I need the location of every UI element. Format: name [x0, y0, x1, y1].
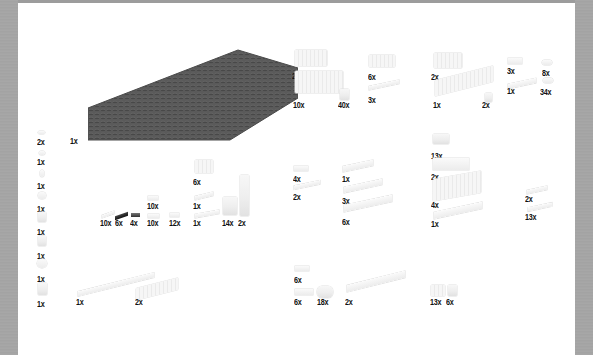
part-count: 6x [294, 298, 302, 307]
minifig-accessory-icon [38, 283, 47, 295]
part-count: 1x [431, 220, 439, 229]
part-count: 1x [342, 175, 350, 184]
part-count: 1x [433, 101, 441, 110]
hook-icon [40, 170, 44, 177]
part-count: 6x [193, 178, 201, 187]
brick-2x4-icon [295, 50, 327, 66]
plate-2x12-icon [347, 271, 405, 292]
brick-2x2-a-icon [431, 285, 445, 296]
left-part-count: 1x [37, 182, 45, 191]
part-count: 12x [169, 219, 180, 228]
brick-1x1-icon [340, 89, 349, 100]
part-count: 34x [540, 88, 551, 97]
flower-icon [37, 259, 47, 268]
brick-1x10-icon [435, 66, 493, 96]
axle-pin-icon [131, 213, 140, 217]
plate-2x2-icon [294, 166, 308, 171]
part-count: 13x [430, 298, 441, 307]
plate-2x6-icon [344, 179, 382, 193]
plate-1x4-icon [527, 186, 547, 194]
part-count: 13x [525, 213, 536, 222]
part-count: 10x [293, 101, 304, 110]
page-border-right [575, 0, 593, 355]
bracket-icon [38, 236, 46, 246]
round-plate-icon [38, 192, 46, 199]
brick-2x3-icon [434, 53, 462, 68]
baseplate-count: 1x [70, 137, 78, 146]
part-count: 2x [525, 195, 533, 204]
plate-2x4-icon [343, 160, 373, 172]
part-count: 10x [147, 219, 158, 228]
plate-1x4-top-icon [195, 192, 213, 200]
part-count: 18x [317, 298, 328, 307]
part-count: 2x [238, 219, 246, 228]
part-count: 3x [507, 67, 515, 76]
part-count: 10x [147, 202, 158, 211]
plate-1x3-top-icon [295, 266, 309, 271]
part-count: 2x [345, 298, 353, 307]
small-clip-icon [38, 131, 45, 134]
left-part-count: 2x [37, 138, 45, 147]
part-count: 1x [193, 219, 201, 228]
brick-1x2-icon [433, 134, 449, 144]
plate-1x2-jumper-icon [170, 213, 179, 217]
parts-inventory-page: 1x 2x 1x 1x 1x 1x 1x 1x 1x 2x 10x 40x 6x… [18, 3, 575, 355]
plate-2x10-icon [434, 202, 482, 219]
plate-1x6-bottom-icon [195, 210, 219, 218]
part-count: 14x [222, 219, 233, 228]
brick-with-clip-icon [38, 212, 46, 222]
plate-1x2-top-icon [148, 196, 158, 200]
brick-2x2-icon [195, 160, 213, 173]
part-count: 4x [130, 219, 138, 228]
part-count: 6x [368, 73, 376, 82]
part-count: 6x [342, 218, 350, 227]
brick-1x2-b-icon [448, 285, 457, 296]
part-count: 10x [100, 219, 111, 228]
slope-brick-icon [223, 197, 237, 215]
brick-1x8-icon [136, 278, 178, 300]
plate-round-small-icon [542, 60, 552, 65]
part-count: 1x [76, 298, 84, 307]
part-count: 40x [338, 101, 349, 110]
part-count: 1x [193, 202, 201, 211]
baseplate-icon [88, 48, 298, 143]
brick-2x8-icon [433, 171, 481, 201]
left-part-count: 1x [37, 158, 45, 167]
part-count: 1x [507, 87, 515, 96]
plate-4x4-icon [433, 158, 469, 170]
brick-1x1x6-column-icon [240, 175, 249, 216]
plate-2x2-bottom-icon [295, 289, 313, 295]
part-count: 4x [431, 201, 439, 210]
part-count: 6x [115, 219, 123, 228]
part-count: 8x [542, 69, 550, 78]
page-border-left [0, 0, 18, 355]
brick-2x6-icon [295, 71, 343, 93]
part-count: 4x [293, 175, 301, 184]
part-count: 6x [294, 276, 302, 285]
plate-2x8-icon [344, 195, 392, 212]
part-count: 2x [135, 298, 143, 307]
part-count: 3x [368, 96, 376, 105]
small-hinge-icon [39, 151, 45, 155]
part-count: 6x [446, 298, 454, 307]
part-count: 2x [482, 101, 490, 110]
brick-1x4-icon [369, 55, 395, 67]
part-count: 2x [293, 193, 301, 202]
plate-1x1-round-icon [543, 78, 553, 83]
plate-2x2-icon [508, 58, 522, 64]
left-part-count: 1x [37, 300, 45, 309]
